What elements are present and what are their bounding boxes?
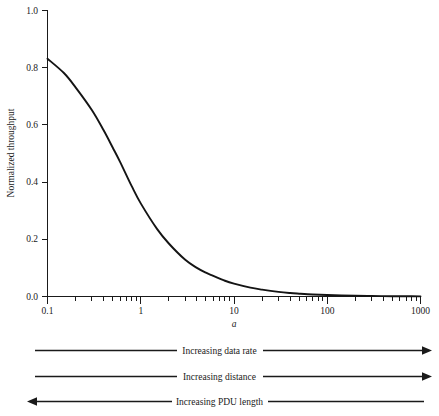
x-tick-label: 1000: [411, 306, 430, 316]
arrow-right-icon: [422, 346, 432, 354]
y-tick-label: 0.8: [26, 63, 38, 73]
x-tick-label: 100: [320, 306, 335, 316]
y-axis-ticks: [42, 11, 48, 297]
x-tick-label: 10: [229, 306, 239, 316]
annotation-label: Increasing PDU length: [176, 397, 263, 407]
x-tick-label: 0.1: [42, 306, 54, 316]
annotation-row-distance: Increasing distance: [35, 372, 432, 382]
annotation-label: Increasing distance: [183, 372, 256, 382]
y-tick-label: 0.6: [26, 120, 38, 130]
annotation-row-data-rate: Increasing data rate: [35, 346, 432, 356]
y-tick-label: 0.0: [26, 292, 38, 302]
figure-container: 1.0 0.8 0.6 0.4 0.2 0.0 Normalized throu…: [0, 0, 439, 416]
annotation-row-pdu-length: Increasing PDU length: [27, 397, 424, 407]
y-axis-title: Normalized throughput: [6, 108, 16, 197]
arrow-right-icon: [422, 372, 432, 380]
throughput-chart-svg: 1.0 0.8 0.6 0.4 0.2 0.0 Normalized throu…: [0, 0, 439, 416]
y-tick-label: 1.0: [26, 6, 38, 16]
x-axis-minor-ticks: [76, 297, 417, 301]
annotation-label: Increasing data rate: [182, 346, 256, 356]
x-axis-title: a: [232, 319, 237, 329]
y-tick-label: 0.2: [26, 234, 38, 244]
y-axis-tick-labels: 1.0 0.8 0.6 0.4 0.2 0.0: [26, 6, 38, 302]
throughput-curve: [48, 59, 421, 297]
x-tick-label: 1: [138, 306, 143, 316]
x-axis-tick-labels: 0.1 1 10 100 1000: [42, 306, 431, 316]
y-tick-label: 0.4: [26, 177, 38, 187]
